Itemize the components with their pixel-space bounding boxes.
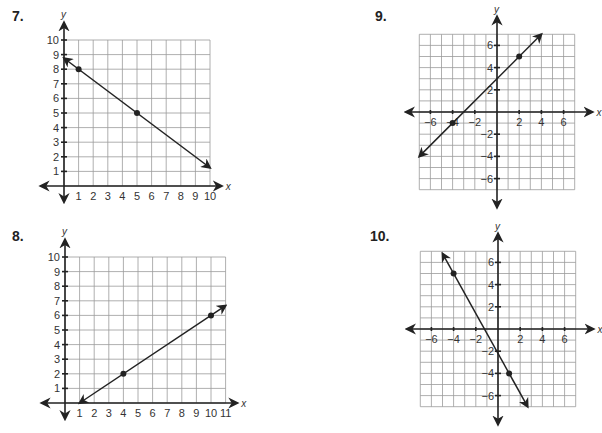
y-tick-label: −6 xyxy=(480,173,493,185)
y-tick-label: 3 xyxy=(54,353,60,365)
x-tick-label: −2 xyxy=(470,333,483,345)
x-tick-label: 1 xyxy=(76,190,82,202)
y-axis-label: y xyxy=(494,221,501,232)
y-tick-label: −2 xyxy=(481,345,494,357)
graph-7: xy1234567891012345678910 xyxy=(41,9,232,202)
y-tick-label: 6 xyxy=(487,39,493,51)
x-tick-label: 9 xyxy=(193,407,199,419)
y-tick-label: 7 xyxy=(53,78,59,90)
graph-8: xy123456789101112345678910 xyxy=(42,226,248,419)
y-tick-label: 6 xyxy=(54,309,60,321)
y-tick-label: 3 xyxy=(53,136,59,148)
data-point xyxy=(76,66,82,72)
x-tick-label: 8 xyxy=(178,190,184,202)
y-tick-label: 4 xyxy=(488,279,494,291)
y-axis-label: y xyxy=(61,226,68,237)
y-tick-label: −4 xyxy=(480,150,493,162)
data-point xyxy=(208,312,214,318)
graphed-line xyxy=(443,254,528,407)
x-tick-label: 3 xyxy=(106,407,112,419)
data-point xyxy=(450,120,456,126)
x-tick-label: 2 xyxy=(516,116,522,128)
x-tick-label: 7 xyxy=(163,190,169,202)
x-tick-label: 8 xyxy=(179,407,185,419)
x-tick-label: 11 xyxy=(220,407,231,419)
y-tick-label: 2 xyxy=(53,151,59,163)
x-axis-label: x xyxy=(240,398,247,409)
x-tick-label: 6 xyxy=(562,333,568,345)
x-tick-label: 2 xyxy=(517,333,523,345)
y-tick-label: 8 xyxy=(53,63,59,75)
x-tick-label: 10 xyxy=(205,407,217,419)
x-tick-label: 6 xyxy=(561,116,567,128)
data-point xyxy=(120,371,126,377)
grid xyxy=(65,257,226,403)
y-tick-label: 5 xyxy=(54,324,60,336)
x-tick-label: 4 xyxy=(119,190,125,202)
data-point xyxy=(451,271,457,277)
y-tick-label: 1 xyxy=(54,382,60,394)
x-tick-label: 3 xyxy=(105,190,111,202)
y-tick-label: −4 xyxy=(481,367,494,379)
x-tick-label: 5 xyxy=(135,407,141,419)
graph-10: xy−6−4−2246−6−4−2246 xyxy=(407,221,602,425)
y-tick-label: 6 xyxy=(53,92,59,104)
x-tick-label: 2 xyxy=(90,190,96,202)
y-axis-label: y xyxy=(60,9,67,20)
x-tick-label: 4 xyxy=(538,116,544,128)
x-axis-label: x xyxy=(595,107,602,118)
data-point xyxy=(516,54,522,60)
y-axis-label: y xyxy=(493,4,500,15)
data-point xyxy=(134,110,140,116)
x-tick-label: 1 xyxy=(77,407,83,419)
x-tick-label: 10 xyxy=(204,190,216,202)
x-tick-label: 9 xyxy=(192,190,198,202)
y-tick-label: 2 xyxy=(54,368,60,380)
y-tick-label: 10 xyxy=(48,251,60,263)
x-axis-label: x xyxy=(596,324,602,335)
y-tick-label: −2 xyxy=(480,128,493,140)
y-tick-label: 1 xyxy=(53,165,59,177)
y-tick-label: −6 xyxy=(481,390,494,402)
y-tick-label: 8 xyxy=(54,280,60,292)
x-tick-label: 6 xyxy=(149,190,155,202)
x-tick-label: −2 xyxy=(469,116,482,128)
x-tick-label: 6 xyxy=(150,407,156,419)
data-point xyxy=(506,370,512,376)
y-tick-label: 2 xyxy=(488,301,494,313)
x-tick-label: 4 xyxy=(539,333,545,345)
y-tick-label: 5 xyxy=(53,107,59,119)
x-axis-label: x xyxy=(225,181,232,192)
y-tick-label: 4 xyxy=(487,62,493,74)
y-tick-label: 7 xyxy=(54,295,60,307)
x-tick-label: −6 xyxy=(425,333,438,345)
y-tick-label: 4 xyxy=(54,339,60,351)
y-tick-label: 6 xyxy=(488,256,494,268)
y-tick-label: 4 xyxy=(53,122,59,134)
graph-9: xy−6−4−2246−6−4−2246 xyxy=(406,4,602,208)
y-tick-label: 9 xyxy=(53,49,59,61)
x-tick-label: −6 xyxy=(424,116,437,128)
x-tick-label: 4 xyxy=(120,407,126,419)
x-tick-label: −4 xyxy=(447,333,460,345)
x-tick-label: 2 xyxy=(91,407,97,419)
graphs-canvas: xy1234567891012345678910 xy1234567891011… xyxy=(0,0,602,433)
y-tick-label: 9 xyxy=(54,266,60,278)
x-tick-label: 7 xyxy=(164,407,170,419)
x-tick-label: 5 xyxy=(134,190,140,202)
y-tick-label: 10 xyxy=(47,34,59,46)
